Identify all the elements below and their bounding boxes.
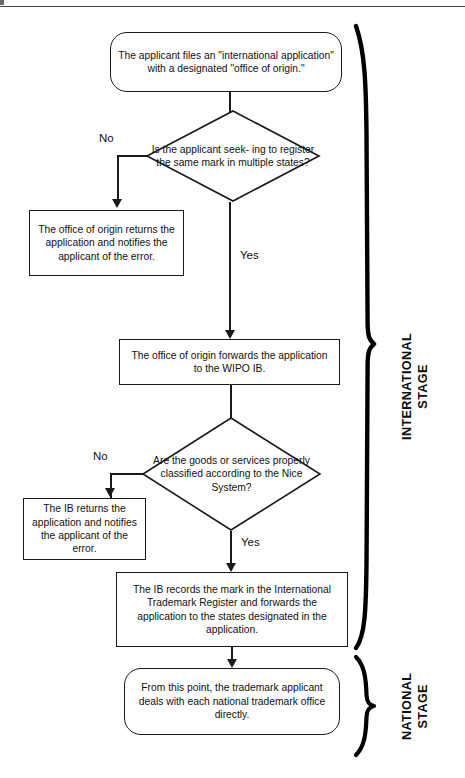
stage-label-national-line1: NATIONAL bbox=[400, 673, 416, 740]
node-ib-records-mark[interactable]: The IB records the mark in the Internati… bbox=[116, 572, 348, 647]
edge-label-yes-1: Yes bbox=[240, 249, 259, 261]
arrowhead-decision2-no bbox=[105, 488, 115, 497]
page-header-text: FLOWCHART bbox=[0, 0, 465, 2]
stage-label-international-line2: STAGE bbox=[416, 333, 432, 440]
page-header-rule bbox=[0, 6, 465, 7]
brace-national-stage bbox=[353, 655, 379, 757]
node-ib-returns-error-text: The IB returns the application and notif… bbox=[24, 502, 145, 556]
stage-label-international: INTERNATIONAL STAGE bbox=[400, 333, 431, 440]
node-decision-nice-classification[interactable]: Are the goods or services properly class… bbox=[142, 417, 321, 531]
node-office-returns-error-text: The office of origin returns the applica… bbox=[30, 223, 183, 263]
node-office-forwards-wipo-text: The office of origin forwards the applic… bbox=[120, 349, 339, 376]
node-office-forwards-wipo[interactable]: The office of origin forwards the applic… bbox=[119, 339, 340, 385]
node-office-returns-error[interactable]: The office of origin returns the applica… bbox=[29, 210, 184, 276]
arrowhead-final bbox=[227, 659, 237, 668]
flowchart-page: FLOWCHART The applicant files an "intern… bbox=[0, 0, 465, 778]
stage-label-national: NATIONAL STAGE bbox=[400, 673, 431, 740]
connector-wipo-to-decision2 bbox=[230, 385, 232, 418]
edge-label-yes-2: Yes bbox=[241, 536, 260, 548]
connector-decision1-no-horizontal bbox=[117, 155, 148, 157]
node-decision-multiple-states[interactable]: Is the applicant seek- ing to register t… bbox=[146, 110, 320, 202]
decision2-diamond-shape bbox=[142, 417, 321, 531]
edge-label-no-2: No bbox=[93, 450, 108, 462]
node-start-application[interactable]: The applicant files an "international ap… bbox=[110, 32, 342, 92]
node-start-application-text: The applicant files an "international ap… bbox=[111, 49, 341, 76]
connector-decision2-no-horizontal bbox=[110, 473, 143, 475]
edge-label-no-1: No bbox=[99, 132, 114, 144]
arrowhead-decision1-yes bbox=[225, 330, 235, 339]
stage-label-international-line1: INTERNATIONAL bbox=[400, 333, 416, 440]
brace-international-stage bbox=[353, 24, 379, 650]
stage-label-national-line2: STAGE bbox=[416, 673, 432, 740]
connector-decision2-yes-vertical bbox=[230, 531, 232, 565]
decision1-diamond-shape bbox=[146, 110, 320, 202]
node-ib-returns-error[interactable]: The IB returns the application and notif… bbox=[23, 498, 146, 560]
connector-decision1-no-vertical bbox=[117, 155, 119, 200]
connector-decision1-yes-vertical bbox=[229, 202, 231, 331]
node-national-stage-end[interactable]: From this point, the trademark applicant… bbox=[124, 668, 340, 735]
arrowhead-decision2-yes bbox=[226, 563, 236, 572]
node-ib-records-mark-text: The IB records the mark in the Internati… bbox=[117, 583, 347, 637]
arrowhead-decision1-no bbox=[112, 199, 122, 208]
node-national-stage-end-text: From this point, the trademark applicant… bbox=[125, 681, 339, 721]
connector-start-to-decision1 bbox=[229, 92, 231, 112]
page-header-tick bbox=[0, 0, 4, 5]
